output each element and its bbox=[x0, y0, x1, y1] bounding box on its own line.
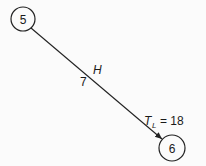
node-5: 5 bbox=[11, 7, 35, 31]
duration-label: 7 bbox=[80, 75, 87, 89]
diagram-svg: 5 H 7 T L = 18 6 bbox=[0, 0, 206, 166]
node-6: 6 bbox=[159, 135, 185, 161]
late-time-annotation: T L = 18 bbox=[144, 114, 184, 130]
network-diagram: 5 H 7 T L = 18 6 bbox=[0, 0, 206, 166]
activity-label: H bbox=[93, 63, 102, 77]
tl-value: = 18 bbox=[160, 114, 184, 128]
activity-arrow bbox=[31, 28, 162, 139]
node-5-label: 5 bbox=[20, 13, 27, 27]
node-6-label: 6 bbox=[169, 142, 176, 156]
tl-subscript: L bbox=[152, 121, 156, 130]
